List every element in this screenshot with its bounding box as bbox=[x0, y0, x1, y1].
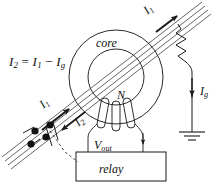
switch-contacts bbox=[23, 121, 58, 147]
current-equation: I2 = I1 − Ig bbox=[9, 55, 65, 70]
vout-subscript: out bbox=[101, 144, 111, 153]
current-arrows bbox=[42, 16, 177, 130]
circuit-diagram-svg bbox=[0, 0, 222, 188]
relay-label: relay bbox=[99, 163, 123, 175]
ground-symbol bbox=[179, 132, 205, 140]
equation-equals: = bbox=[18, 54, 32, 69]
equation-term1: I1 bbox=[33, 54, 42, 69]
equation-lhs: I2 bbox=[9, 54, 18, 69]
figure-canvas: I2 = I1 − Ig core N Vout relay I1 I1 I2 … bbox=[0, 0, 222, 188]
ig-subscript: g bbox=[204, 90, 208, 99]
ground-current-label: Ig bbox=[200, 85, 208, 99]
output-voltage-label: Vout bbox=[94, 139, 112, 153]
equation-minus: − bbox=[42, 54, 56, 69]
core-label: core bbox=[96, 37, 117, 49]
winding-turns-label: N bbox=[117, 89, 125, 101]
secondary-winding bbox=[97, 98, 135, 131]
equation-term2: Ig bbox=[56, 54, 65, 69]
